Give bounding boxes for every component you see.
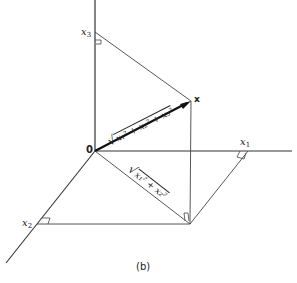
x3-to-x-line xyxy=(95,32,191,101)
right-angle-x3 xyxy=(95,40,101,44)
x2-label: x2 xyxy=(22,218,32,230)
x-drop-line xyxy=(190,101,191,224)
arrowhead-icon xyxy=(180,101,191,109)
x3-label: x3 xyxy=(81,27,91,39)
point-x-label: x xyxy=(194,95,200,104)
x1-to-projection-line xyxy=(190,151,248,224)
x2-axis xyxy=(6,151,95,263)
origin-label: 0 xyxy=(86,145,93,155)
right-angle-x2 xyxy=(42,218,50,224)
right-angle-projection xyxy=(184,213,189,221)
vector-diagram xyxy=(0,0,297,283)
figure-caption: (b) xyxy=(136,261,150,272)
x1-label: x1 xyxy=(240,137,250,149)
origin-to-projection-line xyxy=(95,151,190,224)
